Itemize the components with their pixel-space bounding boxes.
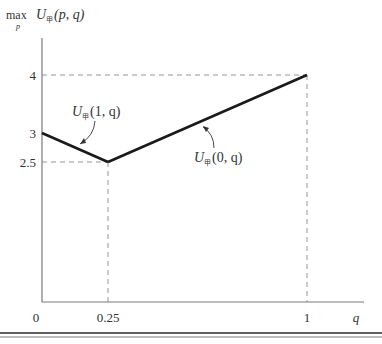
- x-axis-label: q: [353, 310, 360, 325]
- series-u-1-q: [42, 133, 108, 162]
- y-label-args: (p, q): [54, 7, 85, 23]
- y-label-subscript: p: [15, 22, 20, 31]
- y-tick-3: 3: [30, 126, 37, 141]
- x-tick-0-25: 0.25: [97, 310, 120, 325]
- annotation-sub: 甲: [82, 113, 89, 121]
- y-tick-4: 4: [30, 68, 37, 83]
- y-axis-label: max p U 甲 (p, q): [6, 7, 85, 31]
- x-tick-0: 0: [33, 310, 40, 325]
- y-label-func-subscript: 甲: [46, 16, 53, 24]
- arrowhead-icon: [80, 138, 86, 144]
- annotation-u-0-q: U 甲 (0, q): [194, 126, 243, 167]
- chart: max p U 甲 (p, q) 4 3 2.5 0 0.25 1 q U 甲 …: [0, 0, 382, 344]
- y-label-max: max: [6, 8, 27, 22]
- arrow-pointer-icon: [203, 127, 214, 148]
- arrow-pointer-icon: [80, 121, 95, 144]
- annotation-args: (1, q): [90, 104, 121, 120]
- x-tick-1: 1: [304, 310, 311, 325]
- annotation-sub: 甲: [204, 159, 211, 167]
- y-tick-2-5: 2.5: [20, 155, 36, 170]
- series-u-0-q: [108, 75, 307, 162]
- annotation-u-1-q: U 甲 (1, q): [72, 104, 121, 144]
- annotation-args: (0, q): [212, 150, 243, 166]
